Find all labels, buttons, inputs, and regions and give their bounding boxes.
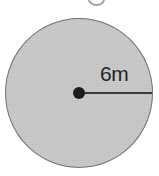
radius-measurement-label: 6m (100, 62, 128, 86)
center-point-marker (73, 87, 85, 99)
radius-line (79, 92, 152, 94)
circle-radius-diagram: 6m (0, 0, 159, 176)
cropped-text-remnant (88, 0, 105, 6)
